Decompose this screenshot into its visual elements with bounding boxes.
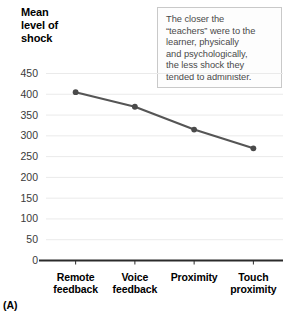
y-tick-label: 50 — [8, 234, 38, 245]
y-tick-label: 450 — [8, 68, 38, 79]
x-tick-label-line: feedback — [97, 283, 172, 295]
x-tick-label-line: proximity — [216, 283, 290, 295]
y-tick-label: 400 — [8, 89, 38, 100]
series-line — [76, 92, 254, 148]
y-tick-label: 200 — [8, 172, 38, 183]
data-point-marker — [250, 145, 256, 151]
y-tick-label: 0 — [8, 255, 38, 266]
figure-label: (A) — [3, 299, 18, 311]
data-point-marker — [73, 89, 79, 95]
data-point-marker — [191, 127, 197, 133]
y-tick-label: 100 — [8, 213, 38, 224]
y-tick-label: 150 — [8, 193, 38, 204]
x-tick-label-line: Touch — [216, 271, 290, 283]
data-point-marker — [132, 104, 138, 110]
x-tick-label: Touchproximity — [216, 271, 290, 296]
y-tick-label: 300 — [8, 130, 38, 141]
y-tick-label: 350 — [8, 110, 38, 121]
y-tick-label: 250 — [8, 151, 38, 162]
figure-panel: Mean level of shock The closer the “teac… — [0, 0, 290, 322]
plot-area: 050100150200250300350400450Remotefeedbac… — [0, 0, 290, 322]
